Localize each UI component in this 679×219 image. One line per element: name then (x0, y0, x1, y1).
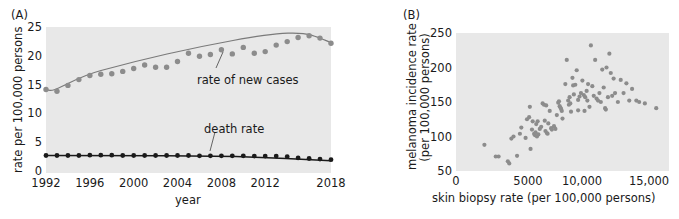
panel-a-annotation-death-rate: death rate (204, 122, 264, 136)
panel-b-ytick-250: 250 (422, 28, 452, 40)
scatter-point (597, 91, 601, 95)
scatter-point (528, 105, 532, 109)
scatter-point (518, 132, 522, 136)
scatter-point (573, 83, 577, 87)
scatter-point (575, 68, 579, 72)
panel-a: (A) rate per 100,000 persons 0 5 10 15 2… (0, 0, 400, 219)
scatter-point (613, 91, 617, 95)
scatter-point (528, 147, 532, 151)
scatter-point (557, 99, 561, 103)
figure-root: (A) rate per 100,000 persons 0 5 10 15 2… (0, 0, 679, 219)
scatter-point (519, 125, 523, 129)
scatter-point (637, 100, 641, 104)
scatter-point (569, 110, 573, 114)
panel-a-xtick-2012: 2012 (245, 178, 285, 190)
scatter-point (560, 116, 564, 120)
panel-a-plot-area (46, 27, 331, 173)
scatter-point (624, 81, 628, 85)
scatter-point (560, 109, 564, 113)
panel-a-xtick-1996: 1996 (70, 178, 110, 190)
scatter-point (482, 143, 486, 147)
scatter-point (536, 132, 540, 136)
scatter-point (612, 76, 616, 80)
scatter-point (553, 127, 557, 131)
scatter-points (482, 43, 658, 165)
scatter-point (606, 95, 610, 99)
panel-b-plot-area (456, 33, 669, 171)
panel-b-x-axis-title: skin biopsy rate (per 100,000 persons) (432, 192, 655, 205)
panel-b-label: (B) (403, 8, 420, 22)
scatter-point (536, 119, 540, 123)
scatter-point (544, 103, 548, 107)
scatter-point (590, 84, 594, 88)
panel-a-annotation-new-cases: rate of new cases (197, 73, 299, 87)
panel-a-plot-svg (46, 27, 331, 173)
scatter-point (586, 82, 590, 86)
scatter-point (619, 78, 623, 82)
scatter-point (523, 136, 527, 140)
scatter-point (527, 115, 531, 119)
scatter-point (600, 67, 604, 71)
panel-a-x-axis-title: year (175, 194, 201, 207)
panel-b-ytick-150: 150 (422, 97, 452, 109)
panel-b-ytick-100: 100 (422, 132, 452, 144)
scatter-point (507, 161, 511, 165)
panel-a-xtick-2000: 2000 (114, 178, 154, 190)
scatter-point (580, 79, 584, 83)
scatter-point (568, 95, 572, 99)
scatter-point (602, 85, 606, 89)
scatter-point (565, 58, 569, 62)
scatter-point (621, 91, 625, 95)
scatter-point (570, 76, 574, 80)
panel-a-ytick-25: 25 (14, 22, 42, 34)
panel-b-xtick-5000: 5000 (508, 176, 548, 188)
scatter-point (511, 134, 515, 138)
panel-a-ytick-15: 15 (14, 80, 42, 92)
panel-a-xtick-2004: 2004 (158, 178, 198, 190)
panel-b-xtick-15000: 15,000 (624, 176, 674, 188)
panel-b-xtick-10000: 10,000 (557, 176, 607, 188)
scatter-point (593, 58, 597, 62)
scatter-point (604, 65, 608, 69)
scatter-point (630, 87, 634, 91)
scatter-point (530, 128, 534, 132)
scatter-point (627, 99, 631, 103)
scatter-point (548, 109, 552, 113)
scatter-point (572, 92, 576, 96)
scatter-point (616, 100, 620, 104)
death-rate-points (44, 153, 334, 162)
scatter-point (568, 101, 572, 105)
panel-b: (B) melanoma incidence rate (per 100,000… (400, 0, 679, 219)
panel-b-ytick-200: 200 (422, 63, 452, 75)
scatter-point (546, 121, 550, 125)
scatter-point (589, 43, 593, 47)
scatter-point (585, 89, 589, 93)
scatter-point (515, 154, 519, 158)
scatter-point (607, 52, 611, 56)
scatter-point (543, 119, 547, 123)
scatter-point (599, 100, 603, 104)
panel-b-plot-svg (456, 33, 669, 171)
panel-b-xtick-0: 0 (441, 176, 471, 188)
panel-a-xtick-2018: 2018 (311, 178, 351, 190)
panel-a-label: (A) (11, 8, 28, 22)
scatter-point (531, 119, 535, 123)
scatter-point (497, 154, 501, 158)
scatter-point (654, 106, 658, 110)
scatter-point (563, 82, 567, 86)
scatter-point (604, 107, 608, 111)
scatter-point (582, 109, 586, 113)
scatter-point (576, 108, 580, 112)
panel-a-xtick-1992: 1992 (26, 178, 66, 190)
new-cases-leader-line (216, 52, 223, 68)
scatter-point (609, 71, 613, 75)
scatter-point (555, 113, 559, 117)
scatter-point (545, 132, 549, 136)
panel-a-ytick-5: 5 (14, 137, 42, 149)
panel-a-y-axis-title: rate per 100,000 persons (12, 27, 25, 173)
panel-a-xtick-2008: 2008 (201, 178, 241, 190)
scatter-point (643, 101, 647, 105)
scatter-point (539, 125, 543, 129)
panel-b-y-axis-title-line1: melanoma incidence rate (406, 25, 419, 170)
panel-a-ytick-10: 10 (14, 108, 42, 120)
